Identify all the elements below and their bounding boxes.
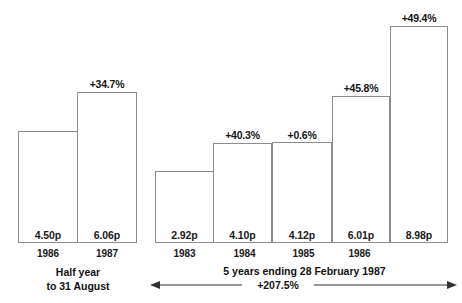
- year-label-1984: 1984: [215, 248, 274, 260]
- bar-value-1987-half: 6.06p: [77, 227, 137, 243]
- bar-value-1987: 8.98p: [390, 227, 448, 243]
- growth-label-1984: +40.3%: [213, 129, 272, 141]
- bar-value-1984: 4.10p: [213, 227, 272, 243]
- group-caption-half-year-line2: to 31 August: [8, 280, 148, 293]
- growth-label-1987: +49.4%: [390, 12, 448, 24]
- group-caption-half-year-line1: Half year: [8, 266, 148, 279]
- year-label-1986-five: 1986: [330, 248, 389, 260]
- bar-value-1985: 4.12p: [272, 227, 332, 243]
- bar-value-1986: 6.01p: [332, 227, 390, 243]
- total-growth-label: +207.5%: [242, 279, 314, 291]
- growth-label-1986: +45.8%: [332, 82, 390, 94]
- bar-value-1986-half: 4.50p: [18, 227, 78, 243]
- year-label-1986-half: 1986: [18, 248, 78, 260]
- bar-1987-half: [77, 92, 137, 243]
- year-label-1983: 1983: [155, 248, 214, 260]
- group-caption-five-year: 5 years ending 28 February 1987: [152, 265, 457, 278]
- bar-1986: [332, 96, 390, 243]
- bar-1987: [390, 26, 448, 243]
- year-label-1987-half: 1987: [77, 248, 137, 260]
- year-label-1985: 1985: [274, 248, 333, 260]
- bar-chart: 4.50p 6.06p +34.7% 1986 1987 Half year t…: [0, 0, 462, 303]
- growth-label-1985: +0.6%: [272, 129, 332, 141]
- growth-label-1987-half: +34.7%: [77, 78, 137, 90]
- bar-value-1983: 2.92p: [155, 227, 214, 243]
